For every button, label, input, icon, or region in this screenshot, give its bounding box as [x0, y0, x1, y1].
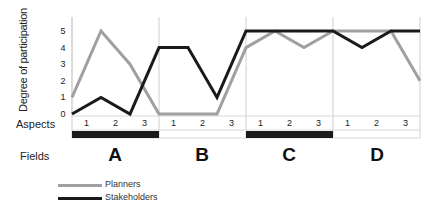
- y-tick-label: 0: [60, 109, 65, 119]
- aspect-tick-label: 1: [171, 118, 176, 128]
- aspect-tick-label: 1: [258, 118, 263, 128]
- aspect-tick-label: 2: [374, 118, 379, 128]
- aspect-tick-label: 2: [287, 118, 292, 128]
- y-tick-label: 4: [60, 43, 65, 53]
- aspect-tick-label: 3: [142, 118, 147, 128]
- aspect-tick-label: 1: [345, 118, 350, 128]
- legend-stakeholders-swatch: [58, 197, 102, 200]
- field-a-label: A: [95, 144, 135, 166]
- legend-planners-label: Planners: [105, 179, 141, 189]
- y-tick-label: 3: [60, 59, 65, 69]
- aspect-tick-label: 2: [113, 118, 118, 128]
- aspect-tick-label: 2: [200, 118, 205, 128]
- y-tick-label: 5: [60, 26, 65, 36]
- line-chart: 012345123123123123: [0, 0, 436, 214]
- field-b-label: B: [182, 144, 222, 166]
- field-bar-c: [246, 131, 333, 138]
- field-bar-a: [72, 131, 159, 138]
- aspects-label: Aspects: [16, 118, 55, 130]
- field-d-label: D: [357, 144, 397, 166]
- aspect-tick-label: 3: [229, 118, 234, 128]
- legend-planners-swatch: [58, 184, 102, 187]
- y-tick-label: 2: [60, 76, 65, 86]
- aspect-tick-label: 3: [316, 118, 321, 128]
- fields-label: Fields: [20, 150, 49, 162]
- aspect-tick-label: 1: [84, 118, 89, 128]
- field-c-label: C: [269, 144, 309, 166]
- y-tick-label: 1: [60, 92, 65, 102]
- legend-stakeholders-label: Stakeholders: [105, 192, 158, 202]
- aspect-tick-label: 3: [403, 118, 408, 128]
